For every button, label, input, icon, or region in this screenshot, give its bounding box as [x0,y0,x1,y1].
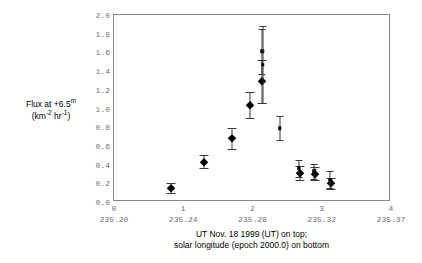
x-tick-label-solar-longitude: 235.32 [307,214,336,225]
error-bar-cap [259,103,266,104]
y-axis-title: Flux at +6.5m (km-2 hr-1) [8,98,94,122]
plot-area: 0.00.20.40.60.81.01.21.41.61.82.0 0235.2… [113,14,390,201]
error-bar-cap [245,118,254,119]
error-bar-cap [200,168,209,169]
error-bar-cap [295,180,304,181]
x-tick-label-ut: 0 [112,204,117,213]
y-tick-label: 0.2 [96,179,114,188]
x-tick-label-ut: 1 [181,204,186,213]
caption-line-1: UT Nov. 18 1999 (UT) on top; [113,229,390,240]
x-tick-label-ut: 2 [250,204,255,213]
y-axis-title-line1: Flux at +6.5m [26,99,76,109]
data-point-diamond [200,158,208,166]
error-bar-cap [295,177,302,178]
x-tick-label-solar-longitude: 235.28 [238,214,267,225]
error-bar-cap [327,171,334,172]
y-axis-title-line2: (km-2 hr-1) [8,110,94,122]
caption-line-2: solar longitude (epoch 2000.0) on bottom [113,240,390,251]
error-bar-cap [327,188,334,189]
y-tick-label: 1.0 [96,104,114,113]
error-bar-cap [227,149,236,150]
data-point-square [278,126,282,130]
y-tick-label: 1.4 [96,67,114,76]
error-bar-cap [295,160,302,161]
data-point-diamond [296,169,304,177]
error-bar-cap [227,128,236,129]
data-point-square [312,169,316,173]
data-point-diamond [228,135,236,143]
x-tick-label-solar-longitude: 235.20 [100,214,129,225]
data-point-square [297,167,301,171]
error-bar-cap [276,116,283,117]
error-bar-cap [245,92,254,93]
error-bar-cap [259,26,266,27]
error-bar-cap [200,155,209,156]
x-tick-label: 0235.20 [100,200,129,225]
y-tick-label: 1.2 [96,85,114,94]
x-axis-caption: UT Nov. 18 1999 (UT) on top; solar longi… [113,229,390,251]
error-bar-cap [310,167,319,168]
data-point-square [328,178,332,182]
y-tick-label: 2.0 [96,11,114,20]
x-tick-label: 1235.24 [169,200,198,225]
data-point-square [261,63,265,67]
data-point-diamond [246,101,254,109]
x-tick-label-ut: 4 [389,204,394,213]
error-bar-cap [310,180,319,181]
x-tick-label: 3235.32 [307,200,336,225]
data-point-diamond [167,184,175,192]
y-tick-label: 1.8 [96,29,114,38]
x-tick-label-solar-longitude: 235.24 [169,214,198,225]
y-tick-label: 0.4 [96,160,114,169]
flux-chart-figure: Flux at +6.5m (km-2 hr-1) 0.00.20.40.60.… [0,0,422,263]
error-bar-cap [326,189,335,190]
x-tick-label: 4235.37 [377,200,406,225]
y-tick-label: 0.8 [96,123,114,132]
error-bar-cap [276,140,283,141]
error-bar-cap [166,193,175,194]
error-bar-cap [311,179,318,180]
x-tick-label: 2235.28 [238,200,267,225]
error-bar-cap [311,164,318,165]
y-tick-label: 1.6 [96,48,114,57]
x-tick-label-ut: 3 [319,204,324,213]
y-tick-label: 0.6 [96,141,114,150]
x-tick-label-solar-longitude: 235.37 [377,214,406,225]
